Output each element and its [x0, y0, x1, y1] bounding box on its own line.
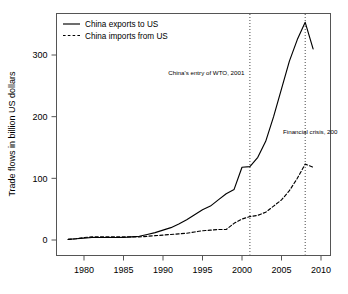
annotation-text: China's entry of WTO, 2001	[168, 69, 245, 76]
chart-container: Trade flows in billion US dollars 010020…	[0, 0, 348, 294]
legend-label: China imports from US	[85, 32, 168, 41]
legend-label: China exports to US	[85, 20, 159, 29]
x-axis-tick-label: 1995	[192, 265, 212, 275]
x-axis-tick-label: 2000	[232, 265, 252, 275]
y-axis-tick-label: 100	[32, 174, 47, 184]
trade-flows-line-chart: Trade flows in billion US dollars 010020…	[0, 0, 348, 294]
y-axis-tick-label: 200	[32, 112, 47, 122]
y-axis-tick-label: 0	[42, 235, 47, 245]
y-axis-label: Trade flows in billion US dollars	[7, 71, 17, 197]
x-axis-tick-label: 1985	[113, 265, 133, 275]
x-axis-tick-label: 2005	[271, 265, 291, 275]
y-axis-tick-label: 300	[32, 50, 47, 60]
x-axis-tick-label: 1990	[153, 265, 173, 275]
x-axis-tick-label: 2010	[311, 265, 331, 275]
annotation-text: Financial crisis, 200	[283, 128, 338, 135]
x-axis-tick-label: 1980	[74, 265, 94, 275]
